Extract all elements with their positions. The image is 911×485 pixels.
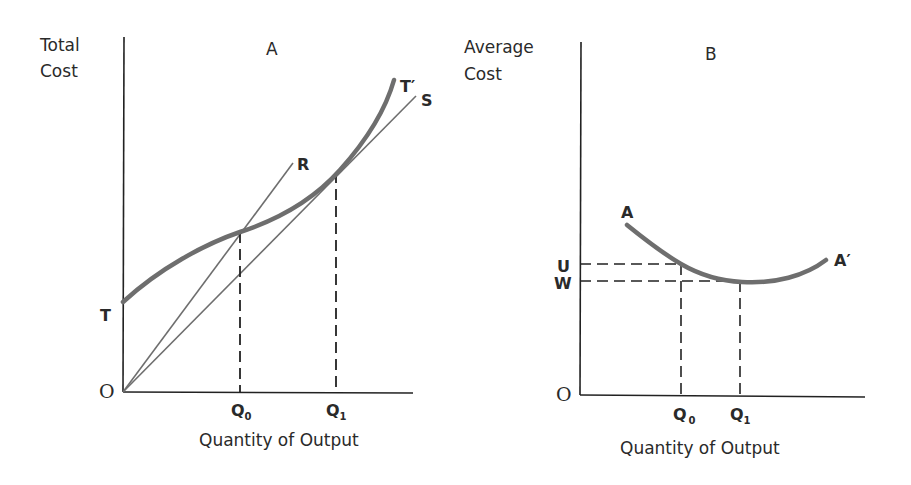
ray-or <box>123 163 293 392</box>
panel-b-average-cost: Average Cost B A A′ U W O Q0 Q1 Quantity… <box>464 37 865 458</box>
panel-b-y-axis <box>580 42 581 395</box>
panel-a-origin-label: O <box>99 380 115 402</box>
label-t: T <box>100 306 111 325</box>
label-a-prime: A′ <box>834 251 851 270</box>
panel-a-y-axis-label-line1: Total <box>39 35 80 55</box>
label-w: W <box>554 274 572 293</box>
panel-a-x-axis-label: Quantity of Output <box>199 430 359 450</box>
panel-b-y-axis-label-line1: Average <box>464 37 534 57</box>
ray-os <box>123 96 416 392</box>
panel-b-q1-label: Q1 <box>730 405 751 426</box>
panel-b-x-axis <box>580 395 865 397</box>
label-a: A <box>621 203 634 222</box>
panel-a-y-axis <box>123 37 124 392</box>
panel-b-origin-label: O <box>556 383 572 405</box>
panel-a-total-cost: Total Cost A T T′ S R O Q0 Q1 Quantity o… <box>39 35 433 450</box>
label-r: R <box>297 155 309 174</box>
panel-a-y-axis-label-line2: Cost <box>40 61 78 81</box>
label-t-prime: T′ <box>400 77 415 96</box>
panel-a-title: A <box>266 39 278 59</box>
panel-a-q1-label: Q1 <box>326 401 347 422</box>
cost-curves-diagram: Total Cost A T T′ S R O Q0 Q1 Quantity o… <box>0 0 911 485</box>
panel-b-q0-label: Q0 <box>673 405 696 426</box>
panel-b-title: B <box>705 44 717 64</box>
total-cost-curve <box>123 80 394 302</box>
panel-a-q0-label: Q0 <box>231 401 252 422</box>
panel-a-x-axis <box>123 392 413 393</box>
panel-b-x-axis-label: Quantity of Output <box>620 438 780 458</box>
average-cost-curve <box>627 225 826 282</box>
panel-b-y-axis-label-line2: Cost <box>464 64 502 84</box>
label-s: S <box>421 91 433 110</box>
